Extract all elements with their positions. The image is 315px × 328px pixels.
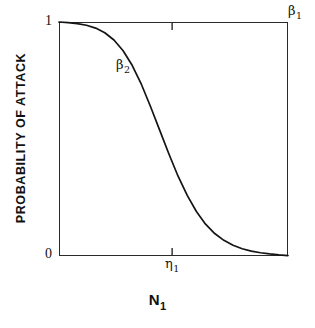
annotation-beta-2-subscript: 2: [124, 64, 131, 75]
annotation-beta-1-symbol: β: [288, 3, 296, 18]
probability-curve: [59, 22, 288, 256]
x-axis-label-subscript: 1: [160, 300, 167, 312]
y-axis-label: PROBABILITY OF ATTACK: [10, 22, 32, 254]
annotation-beta-2-symbol: β: [116, 57, 124, 72]
x-tick-label-eta-symbol: η: [165, 256, 173, 271]
y-tick-label-top: 1: [34, 13, 52, 29]
annotation-beta-1-subscript: 1: [296, 10, 303, 21]
y-tick-label-bottom: 0: [34, 246, 52, 262]
x-axis-label: N1: [0, 292, 315, 312]
x-axis-label-symbol: N: [149, 291, 160, 308]
figure-probability-of-attack: PROBABILITY OF ATTACK 1 0 β1 β2 η1 N1: [0, 0, 315, 328]
annotation-beta-1: β1: [288, 4, 302, 20]
plot-area: [59, 22, 288, 256]
x-tick-label-eta-1: η1: [165, 257, 179, 273]
annotation-beta-2: β2: [116, 58, 130, 74]
x-tick-label-eta-subscript: 1: [173, 263, 180, 274]
